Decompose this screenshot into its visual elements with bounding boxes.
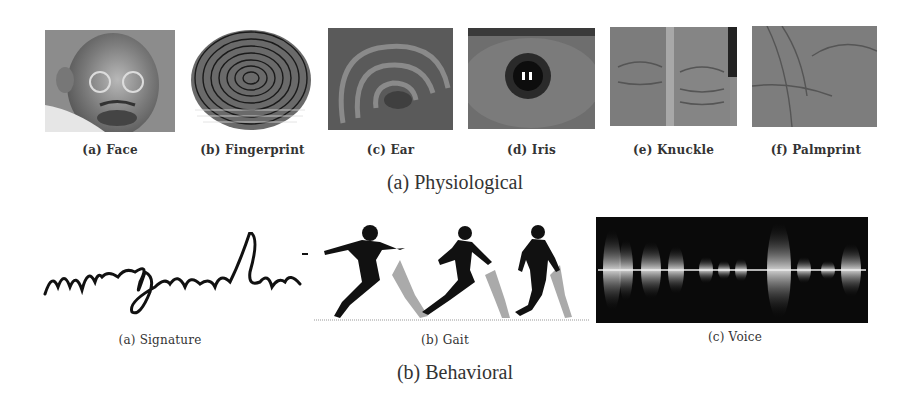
ear-label: (c) Ear (328, 143, 453, 157)
signature-icon (40, 232, 310, 322)
iris-icon (468, 28, 595, 129)
fingerprint-label: (b) Fingerprint (185, 143, 320, 157)
signature-label: (a) Signature (90, 333, 230, 347)
iris-label: (d) Iris (468, 143, 595, 157)
iris-photo (468, 28, 595, 129)
physiological-caption: (a) Physiological (350, 171, 560, 194)
gait-label: (b) Gait (390, 333, 500, 347)
face-icon (45, 30, 175, 132)
face-photo (45, 30, 175, 132)
face-label: (a) Face (45, 143, 175, 157)
gait-icon (310, 220, 592, 328)
voice-waveform (596, 217, 868, 323)
palmprint-photo (752, 26, 877, 127)
knuckle-photo (610, 27, 737, 126)
knuckle-label: (e) Knuckle (610, 143, 737, 157)
palmprint-icon (752, 26, 877, 127)
signature-image (40, 232, 310, 322)
voice-icon (596, 217, 868, 323)
voice-label: (c) Voice (680, 330, 790, 344)
behavioral-caption: (b) Behavioral (360, 361, 550, 384)
fingerprint-image (185, 30, 315, 132)
ear-icon (328, 28, 453, 130)
knuckle-icon (610, 27, 737, 126)
fingerprint-icon (185, 30, 315, 132)
ear-photo (328, 28, 453, 130)
palmprint-label: (f) Palmprint (752, 143, 880, 157)
gait-silhouettes (310, 220, 592, 328)
